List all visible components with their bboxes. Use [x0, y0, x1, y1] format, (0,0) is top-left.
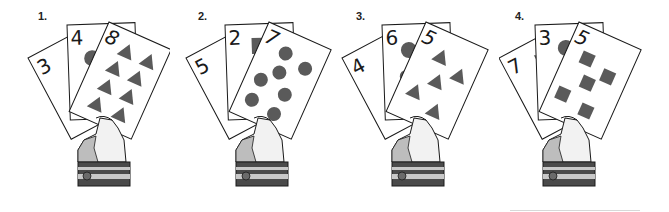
- hand-illustration-2: 5 2 7: [170, 0, 340, 212]
- divider-line: [510, 210, 640, 211]
- card-number: 2: [228, 25, 242, 49]
- hand-panel-2: 2. 5 2 7: [170, 0, 340, 212]
- hand-illustration-1: 3 4 8: [0, 0, 170, 212]
- card-number: 3: [538, 25, 552, 49]
- cuff-icon: [543, 162, 595, 186]
- hand-panel-1: 1. 3 4 8: [0, 0, 170, 212]
- cuff-icon: [78, 162, 130, 186]
- hand-panel-3: 3. 4 6 5: [330, 0, 500, 212]
- hand-panel-4: 4. 7 3 5: [499, 0, 669, 212]
- card-number: 6: [385, 25, 399, 49]
- hand-illustration-4: 7 3 5: [499, 0, 669, 212]
- cuff-icon: [392, 162, 444, 186]
- hand-illustration-3: 4 6 5: [330, 0, 500, 212]
- card-number: 4: [70, 25, 84, 49]
- cuff-icon: [236, 162, 288, 186]
